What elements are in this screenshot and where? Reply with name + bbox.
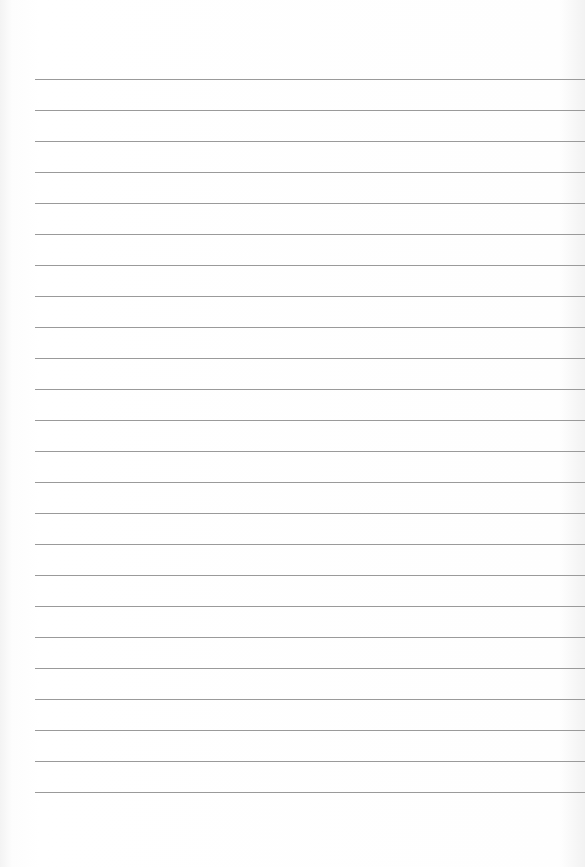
ruled-line — [35, 482, 585, 483]
ruled-line — [35, 141, 585, 142]
ruled-line — [35, 203, 585, 204]
ruled-line — [35, 234, 585, 235]
ruled-line — [35, 668, 585, 669]
ruled-line — [35, 730, 585, 731]
ruled-line — [35, 606, 585, 607]
ruled-line — [35, 265, 585, 266]
ruled-line — [35, 296, 585, 297]
ruled-line — [35, 327, 585, 328]
ruled-line — [35, 513, 585, 514]
ruled-line — [35, 544, 585, 545]
ruled-line — [35, 792, 585, 793]
ruled-line — [35, 451, 585, 452]
ruled-line — [35, 79, 585, 80]
ruled-line — [35, 172, 585, 173]
ruled-line — [35, 761, 585, 762]
ruled-line — [35, 637, 585, 638]
ruled-line — [35, 389, 585, 390]
lined-paper-page — [0, 0, 585, 867]
ruled-line — [35, 699, 585, 700]
ruled-line — [35, 420, 585, 421]
ruled-line — [35, 358, 585, 359]
ruled-line — [35, 575, 585, 576]
ruled-line — [35, 110, 585, 111]
